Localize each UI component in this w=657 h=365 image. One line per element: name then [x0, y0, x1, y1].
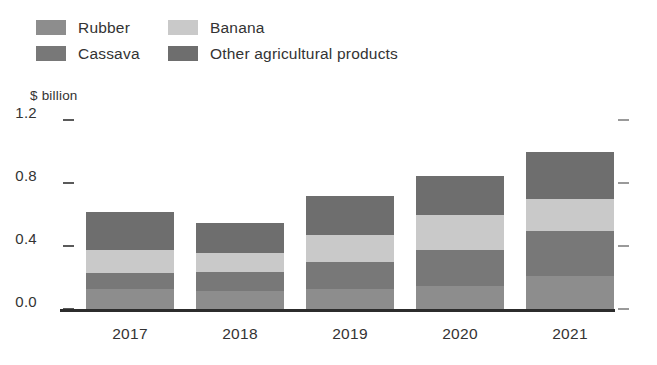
bar-segment: [526, 199, 614, 231]
x-axis-label-2019: 2019: [306, 325, 394, 343]
bar-segment: [526, 276, 614, 309]
bar-segment: [196, 223, 284, 253]
bar-segment: [526, 152, 614, 199]
stacked-bar-chart: Rubber Banana Cassava Other agricultural…: [0, 0, 657, 365]
y-tick-mark: [618, 119, 629, 121]
bar-segment: [306, 262, 394, 289]
bar-segment: [416, 286, 504, 310]
bar-segment: [526, 231, 614, 277]
y-tick-label: 1.2: [15, 104, 37, 121]
bar-segment: [306, 289, 394, 309]
bar-segment: [86, 273, 174, 289]
bar-2018: [196, 223, 284, 310]
bar-2019: [306, 196, 394, 309]
bar-segment: [86, 289, 174, 309]
y-tick-mark: [618, 182, 629, 184]
bar-segment: [196, 272, 284, 291]
y-tick-mark: [618, 245, 629, 247]
bar-segment: [86, 250, 174, 274]
plot-area: 0.00.40.81.2 20172018201920202021: [0, 0, 657, 365]
y-tick-mark: [63, 182, 74, 184]
y-tick-label: 0.0: [15, 293, 37, 310]
x-axis-label-2017: 2017: [86, 325, 174, 343]
x-axis-label-2018: 2018: [196, 325, 284, 343]
bar-segment: [86, 212, 174, 250]
x-axis-baseline: [60, 309, 615, 312]
bar-segment: [416, 215, 504, 250]
bar-segment: [196, 291, 284, 310]
bar-2020: [416, 176, 504, 310]
y-tick-label: 0.8: [15, 167, 37, 184]
bar-segment: [416, 176, 504, 215]
bar-2021: [526, 152, 614, 310]
bar-segment: [416, 250, 504, 286]
bar-segment: [306, 235, 394, 262]
y-tick-mark: [63, 119, 74, 121]
y-tick-mark: [63, 245, 74, 247]
bar-2017: [86, 212, 174, 310]
x-axis-label-2020: 2020: [416, 325, 504, 343]
y-tick-label: 0.4: [15, 230, 37, 247]
bar-segment: [306, 196, 394, 235]
y-tick-mark: [618, 308, 629, 310]
bar-segment: [196, 253, 284, 272]
x-axis-label-2021: 2021: [526, 325, 614, 343]
